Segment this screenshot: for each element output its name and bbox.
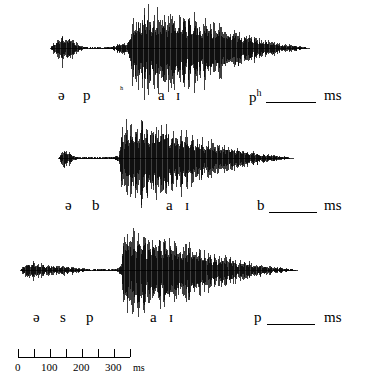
answer-blank-1: [266, 102, 316, 103]
ipa-label-p: p: [83, 88, 91, 103]
ipa-label-schwa: ə: [33, 310, 40, 325]
axis-unit-label: ms: [133, 363, 145, 373]
waveform-panel-1: ə p ʰ a ɪ ph ms: [0, 0, 373, 110]
ipa-label-final-p: p: [254, 310, 262, 325]
time-axis: [0, 348, 250, 358]
waveform-panel-3: ə s p a ɪ p ms: [0, 220, 373, 332]
axis-tick-label-200: 200: [73, 362, 90, 373]
ipa-label-schwa: ə: [65, 198, 72, 213]
time-axis-tick-labels: 0 100 200 300 ms: [0, 362, 250, 378]
ipa-label-vowel-i: ɪ: [169, 310, 173, 325]
answer-blank-3: [267, 324, 315, 325]
transcription-row-3: ə s p a ɪ p ms: [0, 310, 373, 334]
waveform-figure: ə p ʰ a ɪ ph ms ə b a ɪ b ms ə s p a: [0, 0, 373, 385]
transcription-row-1: ə p ʰ a ɪ ph ms: [0, 88, 373, 112]
ipa-label-vowel-a: a: [150, 310, 157, 325]
axis-tick-label-100: 100: [41, 362, 58, 373]
ipa-label-vowel-i: ɪ: [185, 198, 189, 213]
unit-label-ms-3: ms: [324, 310, 342, 325]
ipa-label-p: p: [86, 310, 94, 325]
answer-blank-2: [269, 212, 317, 213]
ipa-label-aspiration: ʰ: [120, 85, 123, 95]
ipa-label-vowel-a: a: [166, 198, 173, 213]
ipa-label-final-p: ph: [249, 88, 262, 105]
ipa-label-vowel-i: ɪ: [176, 88, 180, 103]
axis-tick-label-0: 0: [15, 362, 21, 373]
unit-label-ms-2: ms: [324, 198, 342, 213]
ipa-label-b: b: [92, 198, 100, 213]
transcription-row-2: ə b a ɪ b ms: [0, 198, 373, 222]
waveform-panel-2: ə b a ɪ b ms: [0, 110, 373, 220]
ipa-label-schwa: ə: [58, 88, 65, 103]
ipa-label-s: s: [60, 310, 66, 325]
axis-tick-label-300: 300: [105, 362, 122, 373]
ipa-label-final-b: b: [257, 198, 265, 213]
ipa-label-vowel-a: a: [158, 88, 165, 103]
unit-label-ms-1: ms: [324, 88, 342, 103]
